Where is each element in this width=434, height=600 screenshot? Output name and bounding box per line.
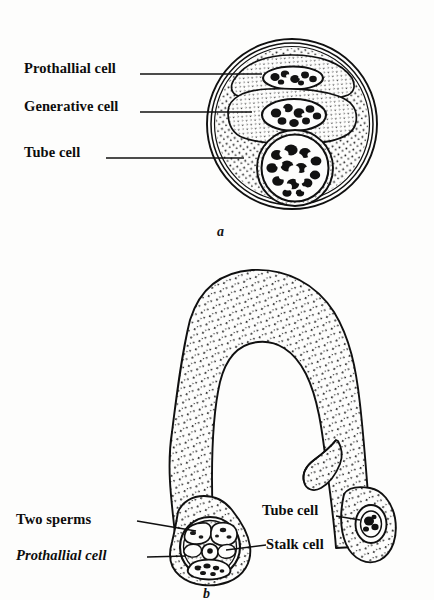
label-prothallial-cell-a: Prothallial cell (24, 60, 116, 77)
stalk-cell (202, 544, 218, 560)
tube-cell-tip-b (341, 487, 396, 562)
figure-male-gametophyte (0, 0, 434, 600)
label-tube-cell-a: Tube cell (24, 144, 80, 161)
sperm-cell-right (211, 523, 237, 546)
panel-letter-b: b (203, 586, 210, 600)
panel-letter-a: a (217, 224, 224, 240)
prothallial-cell-b (188, 560, 231, 580)
stalk-cell-nucleus (207, 548, 213, 554)
label-stalk-cell: Stalk cell (266, 536, 324, 553)
label-generative-cell-a: Generative cell (24, 98, 119, 115)
panel-a-pollen-grain (106, 39, 377, 209)
tube-cell-a (257, 130, 333, 206)
label-prothallial-cell-b: Prothallial cell (16, 547, 107, 564)
label-tube-cell-b: Tube cell (262, 502, 318, 519)
leader-prothallial-b (147, 556, 186, 557)
pollen-grain-body-b (170, 496, 250, 585)
label-two-sperms: Two sperms (16, 511, 91, 528)
